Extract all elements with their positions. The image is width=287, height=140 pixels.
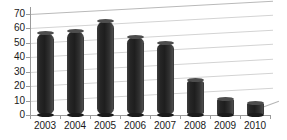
y-tick-10	[26, 101, 30, 102]
bar-2010	[247, 103, 264, 115]
y-tick-60	[26, 28, 30, 29]
y-axis-line	[30, 7, 31, 115]
y-tick-label-40: 40	[14, 52, 25, 62]
y-tick-label-0: 0	[19, 110, 25, 120]
bar-2006	[127, 37, 144, 115]
y-tick-30	[26, 72, 30, 73]
bar-chart: 010203040506070 200320042005200620072008…	[0, 0, 287, 140]
y-tick-40	[26, 57, 30, 58]
x-tick-2010	[240, 115, 241, 119]
x-tick-label-2010: 2010	[239, 120, 271, 131]
x-tick-2003	[30, 115, 31, 119]
bar-2007	[157, 43, 174, 115]
x-tick-2007	[150, 115, 151, 119]
bar-2004	[67, 31, 84, 115]
y-tick-label-50: 50	[14, 38, 25, 48]
x-tick-2006	[120, 115, 121, 119]
y-tick-label-70: 70	[14, 9, 25, 19]
x-tick-2005	[90, 115, 91, 119]
y-tick-label-30: 30	[14, 67, 25, 77]
x-tick-label-2008: 2008	[179, 120, 211, 131]
x-tick-label-2007: 2007	[149, 120, 181, 131]
x-tick-2009	[210, 115, 211, 119]
x-tick-label-2005: 2005	[89, 120, 121, 131]
x-tick-label-2003: 2003	[29, 120, 61, 131]
bar-2005	[97, 21, 114, 115]
x-tick-label-2006: 2006	[119, 120, 151, 131]
y-tick-70	[26, 14, 30, 15]
x-tick-label-2004: 2004	[59, 120, 91, 131]
y-tick-label-20: 20	[14, 81, 25, 91]
x-tick-end	[270, 115, 271, 119]
bar-2008	[187, 80, 204, 115]
y-tick-label-10: 10	[14, 96, 25, 106]
y-tick-label-60: 60	[14, 23, 25, 33]
plot-area: 010203040506070 200320042005200620072008…	[0, 0, 287, 140]
x-tick-2004	[60, 115, 61, 119]
bar-2009	[217, 99, 234, 115]
y-tick-50	[26, 43, 30, 44]
bar-2003	[37, 33, 54, 115]
x-tick-label-2009: 2009	[209, 120, 241, 131]
x-tick-2008	[180, 115, 181, 119]
y-tick-20	[26, 86, 30, 87]
